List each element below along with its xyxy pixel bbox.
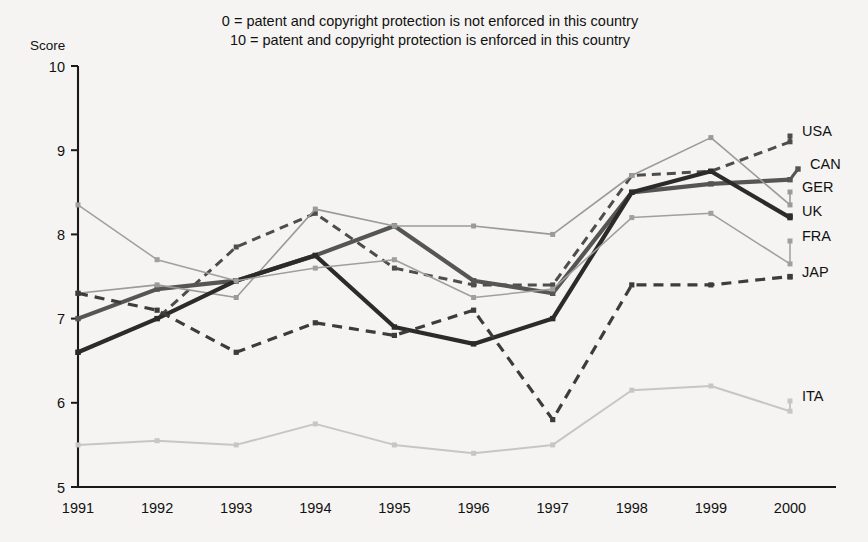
data-point-marker xyxy=(154,316,159,321)
data-point-marker xyxy=(708,181,713,186)
data-point-marker xyxy=(550,287,555,292)
data-point-marker xyxy=(471,451,476,456)
data-point-marker xyxy=(313,320,318,325)
data-point-marker xyxy=(234,350,239,355)
data-point-marker xyxy=(155,438,160,443)
series-ger xyxy=(76,135,793,300)
x-tick-label: 1992 xyxy=(141,500,173,516)
data-point-marker xyxy=(392,224,397,229)
data-point-marker xyxy=(75,291,80,296)
legend-label-can: CAN xyxy=(810,156,841,172)
x-tick-label: 1999 xyxy=(695,500,727,516)
data-point-marker xyxy=(76,442,81,447)
series-uk xyxy=(75,169,792,355)
data-point-marker xyxy=(392,257,397,262)
data-point-marker xyxy=(75,316,80,321)
chart-series xyxy=(75,134,800,456)
data-point-marker xyxy=(471,278,476,283)
data-point-marker xyxy=(155,308,160,313)
legend-marker xyxy=(788,190,793,195)
series-ita xyxy=(76,384,793,456)
legend-label-uk: UK xyxy=(802,203,822,219)
data-point-marker xyxy=(550,442,555,447)
x-tick-label: 2000 xyxy=(774,500,806,516)
x-tick-label: 1997 xyxy=(537,500,569,516)
data-point-marker xyxy=(471,308,476,313)
legend-label-ita: ITA xyxy=(802,388,823,404)
series-can xyxy=(75,166,800,321)
data-point-marker xyxy=(76,202,81,207)
data-point-marker xyxy=(708,282,713,287)
data-point-marker xyxy=(392,266,397,271)
legend-marker xyxy=(788,399,793,404)
data-point-marker xyxy=(550,232,555,237)
data-point-marker xyxy=(629,282,634,287)
data-point-marker xyxy=(629,388,634,393)
data-point-marker xyxy=(708,384,713,389)
x-tick-label: 1994 xyxy=(299,500,331,516)
data-point-marker xyxy=(550,316,555,321)
line-chart-plot: 5678910199119921993199419951996199719981… xyxy=(0,0,868,542)
data-point-marker xyxy=(629,215,634,220)
y-tick-label: 7 xyxy=(57,311,65,327)
data-point-marker xyxy=(313,207,318,212)
legend-label-ger: GER xyxy=(802,179,833,195)
chart-axes xyxy=(71,66,836,487)
data-point-marker xyxy=(708,169,713,174)
y-tick-label: 5 xyxy=(57,480,65,496)
data-point-marker xyxy=(708,211,713,216)
y-tick-label: 9 xyxy=(57,143,65,159)
data-point-marker xyxy=(313,266,318,271)
data-point-marker xyxy=(471,341,476,346)
data-point-marker xyxy=(234,245,239,250)
data-point-marker xyxy=(313,421,318,426)
x-tick-label: 1996 xyxy=(457,500,489,516)
legend-marker xyxy=(788,239,793,244)
legend-marker xyxy=(788,134,793,139)
x-tick-label: 1995 xyxy=(378,500,410,516)
data-point-marker xyxy=(234,278,239,283)
chart-page: 0 = patent and copyright protection is n… xyxy=(0,0,868,542)
y-tick-label: 8 xyxy=(57,227,65,243)
data-point-marker xyxy=(471,295,476,300)
data-point-marker xyxy=(75,350,80,355)
data-point-marker xyxy=(629,190,634,195)
x-tick-label: 1998 xyxy=(616,500,648,516)
data-point-marker xyxy=(550,417,555,422)
data-point-marker xyxy=(155,282,160,287)
legend-label-usa: USA xyxy=(802,123,832,139)
x-tick-label: 1993 xyxy=(220,500,252,516)
legend-marker xyxy=(787,213,792,218)
data-point-marker xyxy=(629,173,634,178)
data-point-marker xyxy=(471,224,476,229)
legend-marker xyxy=(795,166,800,171)
data-point-marker xyxy=(234,442,239,447)
data-point-marker xyxy=(392,442,397,447)
legend-label-fra: FRA xyxy=(802,228,831,244)
y-tick-label: 6 xyxy=(57,395,65,411)
data-point-marker xyxy=(392,333,397,338)
data-point-marker xyxy=(313,253,318,258)
data-point-marker xyxy=(234,295,239,300)
legend-marker xyxy=(787,274,792,279)
y-tick-label: 10 xyxy=(49,59,65,75)
data-point-marker xyxy=(708,135,713,140)
x-tick-label: 1991 xyxy=(62,500,94,516)
legend-label-jap: JAP xyxy=(802,264,829,280)
data-point-marker xyxy=(392,324,397,329)
data-point-marker xyxy=(155,257,160,262)
